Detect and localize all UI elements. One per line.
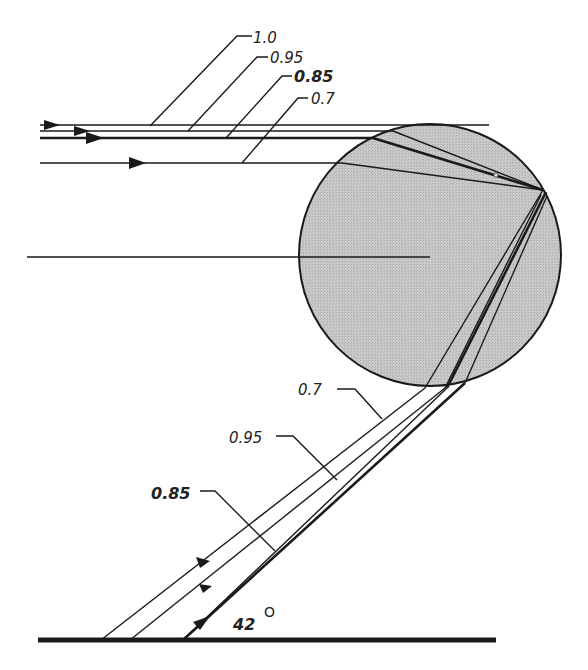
arrow-down-left-icon (199, 584, 212, 593)
marker-dot (494, 173, 498, 177)
outgoing-leaders (200, 389, 382, 551)
angle-label: 42 (232, 615, 255, 634)
label-outgoing-07: 0.7 (298, 381, 322, 399)
label-outgoing-095: 0.95 (229, 429, 262, 447)
label-incoming-095: 0.95 (270, 49, 303, 67)
arrow-right-icon (86, 132, 104, 144)
outgoing-ray-07 (101, 388, 425, 640)
label-incoming-1: 1.0 (253, 29, 277, 47)
rainbow-ray-diagram: 1.0 0.95 0.85 0.7 0.7 0.95 0.85 42 O (0, 0, 588, 670)
arrow-right-icon (44, 120, 60, 130)
arrow-right-icon (129, 157, 146, 169)
outgoing-rays (101, 383, 465, 640)
degree-symbol: O (264, 604, 275, 620)
outgoing-ray-095 (130, 388, 445, 640)
label-outgoing-085: 0.85 (151, 484, 190, 503)
label-incoming-085: 0.85 (294, 67, 333, 86)
label-incoming-07: 0.7 (311, 90, 335, 108)
outgoing-ray-085 (183, 383, 465, 640)
arrow-down-left-icon (196, 557, 210, 568)
